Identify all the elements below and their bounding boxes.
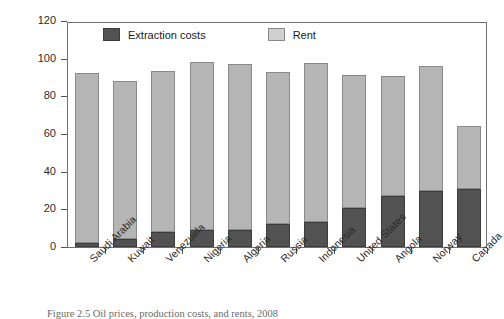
y-axis-tick-label: 60 <box>0 127 56 139</box>
bar-segment-rent[interactable] <box>228 64 252 230</box>
legend-entry-rent: Rent <box>268 28 316 41</box>
bar-algeria[interactable] <box>228 64 252 247</box>
bar-segment-extraction-costs[interactable] <box>151 232 175 247</box>
bar-nigeria[interactable] <box>190 62 214 247</box>
y-axis-tick-label: 0 <box>0 240 56 252</box>
bar-segment-rent[interactable] <box>381 76 405 197</box>
bar-russia[interactable] <box>266 72 290 247</box>
bar-segment-extraction-costs[interactable] <box>266 224 290 247</box>
bar-norway[interactable] <box>419 66 443 247</box>
bar-segment-rent[interactable] <box>266 72 290 225</box>
y-axis-tick-label: 40 <box>0 165 56 177</box>
bar-segment-rent[interactable] <box>304 63 328 221</box>
bar-segment-rent[interactable] <box>457 126 481 188</box>
bar-segment-rent[interactable] <box>75 73 99 243</box>
legend-entry-extraction-costs: Extraction costs <box>103 28 206 41</box>
y-axis-tick-label: 100 <box>0 52 56 64</box>
figure-caption: Figure 2.5 Oil prices, production costs,… <box>47 308 278 319</box>
legend-swatch-extraction-costs-icon <box>103 28 120 41</box>
bar-venezuela[interactable] <box>151 71 175 247</box>
chart-legend: Extraction costs Rent <box>103 28 316 41</box>
bar-segment-rent[interactable] <box>419 66 443 190</box>
bar-united-states[interactable] <box>342 75 366 247</box>
bar-saudi-arabia[interactable] <box>75 73 99 247</box>
bar-segment-rent[interactable] <box>190 62 214 230</box>
y-axis-tick-label: 80 <box>0 89 56 101</box>
bar-segment-rent[interactable] <box>342 75 366 209</box>
legend-label-rent: Rent <box>293 29 316 41</box>
bar-canada[interactable] <box>457 126 481 247</box>
bar-indonesia[interactable] <box>304 63 328 247</box>
legend-swatch-rent-icon <box>268 28 285 41</box>
y-axis-tick-label: 120 <box>0 14 56 26</box>
y-axis-tick-label: 20 <box>0 202 56 214</box>
legend-label-extraction-costs: Extraction costs <box>128 29 206 41</box>
bar-segment-rent[interactable] <box>151 71 175 232</box>
